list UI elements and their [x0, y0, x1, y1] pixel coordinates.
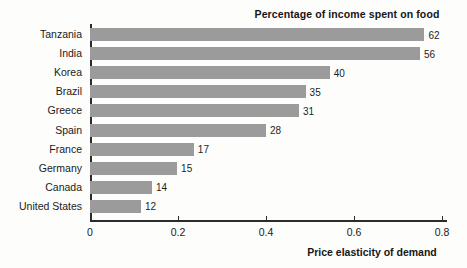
bar-value-label: 40	[330, 67, 345, 78]
x-axis-line	[90, 220, 447, 222]
bar-united-states	[90, 200, 141, 213]
x-tick-mark	[442, 216, 443, 222]
bar-row: 15	[90, 162, 467, 175]
category-label-tanzania: Tanzania	[40, 28, 82, 41]
category-label-greece: Greece	[48, 104, 82, 117]
bar-france	[90, 143, 194, 156]
bar-row: 40	[90, 66, 467, 79]
x-tick-mark	[178, 216, 179, 222]
bar-value-label: 14	[152, 182, 167, 193]
bar-greece	[90, 104, 299, 117]
bar-korea	[90, 66, 330, 79]
category-label-spain: Spain	[55, 124, 82, 137]
chart-title: Percentage of income spent on food	[232, 8, 462, 20]
x-tick-label: 0.8	[435, 226, 450, 238]
bar-row: 17	[90, 143, 467, 156]
bar-brazil	[90, 85, 306, 98]
bar-value-label: 56	[420, 48, 435, 59]
bar-germany	[90, 162, 177, 175]
category-label-germany: Germany	[39, 162, 82, 175]
category-label-brazil: Brazil	[56, 85, 82, 98]
category-label-india: India	[59, 47, 82, 60]
category-label-france: France	[49, 143, 82, 156]
category-label-canada: Canada	[45, 181, 82, 194]
bar-tanzania	[90, 28, 424, 41]
bar-spain	[90, 124, 266, 137]
bar-chart-figure: Percentage of income spent on food 62564…	[0, 0, 467, 268]
bar-row: 35	[90, 85, 467, 98]
category-label-korea: Korea	[54, 66, 82, 79]
bar-value-label: 28	[266, 125, 281, 136]
bar-row: 62	[90, 28, 467, 41]
x-tick-mark	[266, 216, 267, 222]
bar-value-label: 35	[306, 86, 321, 97]
bar-row: 14	[90, 181, 467, 194]
bar-row: 12	[90, 200, 467, 213]
bar-canada	[90, 181, 152, 194]
bar-value-label: 15	[177, 163, 192, 174]
bar-row: 31	[90, 104, 467, 117]
x-tick-label: 0.4	[259, 226, 274, 238]
x-tick-mark	[354, 216, 355, 222]
x-tick-label: 0.6	[347, 226, 362, 238]
bar-india	[90, 47, 420, 60]
x-tick-label: 0	[87, 226, 93, 238]
category-label-united-states: United States	[19, 200, 82, 213]
bar-value-label: 31	[299, 105, 314, 116]
bar-value-label: 62	[424, 29, 439, 40]
bar-value-label: 17	[194, 144, 209, 155]
x-axis-title: Price elasticity of demand	[277, 246, 467, 258]
bar-row: 28	[90, 124, 467, 137]
bar-row: 56	[90, 47, 467, 60]
bar-value-label: 12	[141, 201, 156, 212]
x-tick-label: 0.2	[171, 226, 186, 238]
